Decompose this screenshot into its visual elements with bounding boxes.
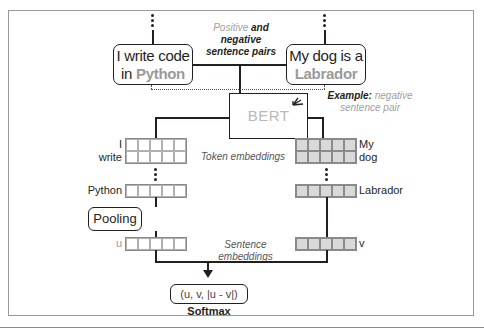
sentence-box-right: My dog is a Labrador xyxy=(286,44,366,85)
bert-label: BERT xyxy=(248,107,290,124)
sentence-right-highlight: Labrador xyxy=(287,65,365,83)
sentence-left-line1: I write code xyxy=(114,47,192,65)
token-label: dog xyxy=(359,151,377,164)
caption-example-negative-pair: Example: negative sentence pair xyxy=(322,90,418,114)
token-embedding-row-left-last xyxy=(125,184,187,198)
bert-model-box: BERT xyxy=(229,93,308,139)
softmax-label: Softmax xyxy=(170,305,248,317)
token-label: I xyxy=(110,138,122,151)
negative-pair-dotted-line xyxy=(324,85,325,89)
caption-sentence-pairs: Positive and negative sentence pairs xyxy=(196,22,286,58)
sentence-right-line1: My dog is a xyxy=(287,47,365,65)
connector xyxy=(322,117,324,138)
concatenation-box: (u, v, |u - v|) xyxy=(170,284,248,304)
connector xyxy=(324,30,326,44)
connector xyxy=(155,117,157,138)
sentence-left-line2: in Python xyxy=(114,65,192,83)
shared-weights-icon xyxy=(292,96,304,106)
sentence-embedding-u xyxy=(125,237,187,251)
caption-sentence-embeddings: Sentence embeddings xyxy=(198,239,293,263)
sentence-box-left: I write code in Python xyxy=(113,44,193,85)
caption-token-embeddings: Token embeddings xyxy=(198,151,288,163)
vector-label-u: u xyxy=(110,237,122,250)
token-embedding-grid-left xyxy=(125,138,187,164)
token-embedding-grid-right xyxy=(295,138,357,164)
connector xyxy=(155,261,328,263)
sentence-left-highlight: Python xyxy=(136,65,185,82)
token-label: Python xyxy=(72,184,122,197)
vertical-ellipsis-right-top xyxy=(322,14,326,27)
vertical-ellipsis-left-top xyxy=(150,14,154,27)
connector xyxy=(308,117,323,119)
vector-label-v: v xyxy=(359,237,365,250)
connector xyxy=(155,117,229,119)
vertical-ellipsis-left xyxy=(153,168,157,181)
bottom-rule xyxy=(0,327,484,328)
down-arrow-icon xyxy=(203,270,213,278)
token-embedding-row-right-last xyxy=(295,184,357,198)
token-label: My xyxy=(359,138,374,151)
sentence-embedding-v xyxy=(295,237,357,251)
connector xyxy=(326,197,328,237)
connector xyxy=(155,197,157,207)
negative-pair-dotted-line xyxy=(151,89,325,90)
connector xyxy=(152,30,154,44)
token-label: write xyxy=(90,151,122,164)
token-label: Labrador xyxy=(359,184,403,197)
pooling-box: Pooling xyxy=(88,207,142,231)
vertical-ellipsis-right xyxy=(324,168,328,181)
